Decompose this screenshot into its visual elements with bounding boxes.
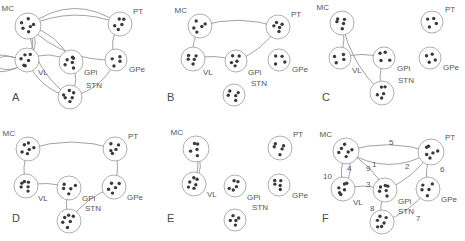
- neuron-dot: [337, 186, 340, 189]
- node-gpi[interactable]: GPi: [225, 50, 262, 77]
- node-vl[interactable]: VL: [329, 47, 362, 75]
- neuron-dot: [200, 25, 203, 28]
- node-circle: [418, 139, 444, 165]
- node-pt[interactable]: PT: [103, 132, 138, 161]
- node-mc[interactable]: MC: [175, 6, 212, 38]
- neuron-dot: [427, 145, 430, 148]
- neuron-dot: [235, 60, 238, 63]
- node-pt[interactable]: PT: [266, 10, 301, 39]
- neuron-dot: [227, 94, 230, 97]
- node-vl[interactable]: VL: [331, 177, 363, 207]
- neuron-dot: [237, 216, 240, 219]
- node-vl[interactable]: VL: [182, 172, 217, 199]
- region-label-pt: PT: [291, 10, 301, 19]
- neuron-dot: [228, 187, 231, 190]
- neuron-dot: [342, 53, 345, 56]
- node-gpi[interactable]: GPi: [57, 176, 96, 203]
- neuron-dot: [274, 142, 277, 145]
- neuron-dot: [107, 187, 110, 190]
- neuron-dot: [235, 185, 238, 188]
- node-circle: [329, 47, 351, 69]
- edge-number-3: 3: [366, 180, 371, 189]
- node-stn[interactable]: STN: [370, 207, 414, 234]
- neuron-dot: [27, 30, 30, 33]
- node-gpe[interactable]: GPe: [268, 49, 309, 74]
- node-gpi[interactable]: GPi: [373, 47, 411, 73]
- node-gpi[interactable]: GPi: [373, 178, 412, 206]
- node-stn[interactable]: STN: [370, 76, 414, 105]
- region-label-pt: PT: [133, 7, 143, 16]
- neuron-dot: [26, 152, 29, 155]
- panel-letter-f: F: [322, 212, 329, 224]
- neuron-dot: [380, 85, 383, 88]
- panel-letter-d: D: [12, 212, 20, 224]
- node-mc[interactable]: MC: [317, 3, 354, 35]
- region-label-gpe: GPe: [292, 65, 309, 74]
- region-label-pt: PT: [293, 130, 303, 139]
- node-vl[interactable]: VL: [14, 174, 48, 203]
- node-mc[interactable]: MC: [171, 128, 209, 162]
- neuron-dot: [191, 62, 194, 65]
- node-mc[interactable]: MC: [3, 129, 40, 161]
- node-pt[interactable]: PT: [268, 130, 303, 160]
- node-vl[interactable]: VL: [181, 47, 213, 77]
- neuron-dot: [67, 214, 70, 217]
- node-gpe[interactable]: GPe: [105, 49, 146, 74]
- node-pt[interactable]: PT: [421, 5, 455, 33]
- node-pt[interactable]: PT: [108, 7, 143, 36]
- node-circle: [268, 136, 292, 160]
- node-mc[interactable]: MC: [2, 4, 41, 39]
- neuron-dot: [275, 21, 278, 24]
- region-label-vl: VL: [38, 68, 48, 77]
- neuron-dot: [234, 94, 237, 97]
- neuron-dot: [26, 185, 29, 188]
- neuron-dot: [388, 58, 391, 61]
- panel-letter-c: C: [322, 91, 330, 103]
- node-stn[interactable]: STN: [224, 203, 268, 231]
- panel-b: MCPTVLGPiGPeSTNB: [167, 6, 309, 106]
- neuron-dot: [280, 55, 283, 58]
- neuron-dot: [426, 194, 429, 197]
- node-gpe[interactable]: GPe: [419, 47, 460, 72]
- neuron-dot: [378, 52, 381, 55]
- neuron-dot: [32, 23, 35, 26]
- node-mc[interactable]: MC: [320, 130, 359, 164]
- neuron-dot: [343, 188, 346, 191]
- node-circle: [223, 84, 245, 106]
- neuron-dot: [234, 219, 237, 222]
- node-vl[interactable]: VL: [15, 48, 48, 77]
- neuron-dot: [335, 61, 338, 64]
- node-gpe[interactable]: GPe: [416, 177, 458, 204]
- node-circle: [105, 49, 127, 71]
- neuron-dot: [23, 53, 26, 56]
- node-circle: [58, 85, 82, 109]
- neuron-dot: [382, 92, 385, 95]
- neuron-dot: [386, 184, 389, 187]
- node-gpe[interactable]: GPe: [268, 174, 309, 200]
- node-circle: [373, 47, 395, 69]
- neuron-dot: [192, 176, 195, 179]
- neuron-dot: [188, 180, 191, 183]
- neuron-dot: [110, 182, 113, 185]
- edge-number-10: 10: [323, 172, 332, 181]
- neuron-dot: [63, 63, 66, 66]
- neuron-dot: [196, 142, 199, 145]
- node-circle: [370, 210, 394, 234]
- node-gpi[interactable]: GPi: [59, 50, 98, 77]
- neuron-dot: [192, 26, 195, 29]
- node-circle: [14, 174, 38, 198]
- neuron-dot: [384, 216, 387, 219]
- neuron-dot: [114, 186, 117, 189]
- neuron-dot: [72, 91, 75, 94]
- neuron-dot: [20, 21, 23, 24]
- region-label-vl: VL: [353, 198, 363, 207]
- neuron-dot: [278, 184, 281, 187]
- node-stn[interactable]: STN: [223, 79, 267, 106]
- node-gpe[interactable]: GPe: [102, 175, 144, 202]
- node-stn[interactable]: STN: [58, 81, 102, 109]
- neuron-dot: [21, 27, 24, 30]
- neuron-dot: [346, 150, 349, 153]
- neuron-dot: [436, 149, 439, 152]
- node-pt[interactable]: PT: [418, 133, 455, 165]
- node-gpi[interactable]: GPi: [224, 175, 261, 202]
